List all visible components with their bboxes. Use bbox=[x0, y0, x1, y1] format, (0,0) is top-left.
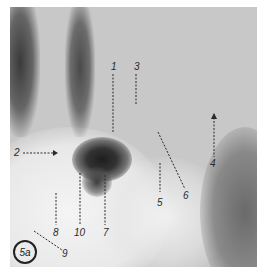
label-6: 6 bbox=[183, 191, 189, 201]
radiograph-image: 1 3 2 4 5 6 7 8 9 10 5a bbox=[10, 7, 257, 267]
label-5: 5 bbox=[157, 198, 163, 208]
annotation-lines bbox=[10, 7, 257, 267]
label-9: 9 bbox=[62, 249, 68, 259]
label-2: 2 bbox=[14, 148, 20, 158]
label-3: 3 bbox=[134, 62, 140, 72]
label-7: 7 bbox=[103, 228, 109, 238]
figure-id-badge: 5a bbox=[13, 240, 37, 264]
label-1: 1 bbox=[111, 62, 117, 72]
label-8: 8 bbox=[53, 228, 59, 238]
label-10: 10 bbox=[74, 228, 85, 238]
label-4: 4 bbox=[210, 159, 216, 169]
